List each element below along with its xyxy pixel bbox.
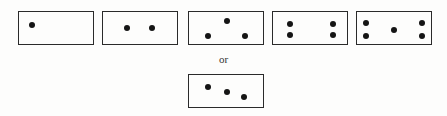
dot: [224, 18, 230, 24]
dot: [363, 20, 369, 26]
dot: [149, 25, 155, 31]
dot: [330, 32, 336, 38]
box-two-dots: [102, 11, 178, 45]
dot: [29, 22, 35, 28]
dot: [242, 33, 248, 39]
box-four-dots: [272, 11, 348, 45]
box-three-dots-triangle: [188, 11, 264, 45]
dot: [391, 27, 397, 33]
dot: [205, 33, 211, 39]
dot: [241, 94, 247, 100]
dot: [287, 32, 293, 38]
dot: [224, 89, 230, 95]
dot: [363, 33, 369, 39]
box-five-dots: [356, 11, 432, 45]
dot: [419, 33, 425, 39]
dot: [419, 20, 425, 26]
dot: [330, 21, 336, 27]
box-one-dot: [18, 11, 94, 45]
or-label: or: [0, 53, 447, 65]
box-three-dots-diagonal: [188, 74, 264, 108]
dot: [124, 25, 130, 31]
dot: [287, 21, 293, 27]
dot: [205, 84, 211, 90]
